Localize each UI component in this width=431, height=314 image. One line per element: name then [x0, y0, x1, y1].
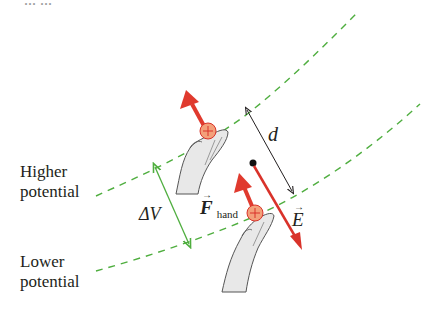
- distance-label: d: [268, 124, 278, 144]
- f-hand-label: → F hand: [200, 198, 238, 217]
- lower-potential-label: Lower potential: [20, 252, 79, 292]
- delta-v-label: ΔV: [139, 205, 161, 223]
- higher-equipotential-line: [96, 12, 358, 196]
- equipotential-diagram: ... ...: [0, 0, 431, 314]
- lower-positive-charge-icon: [247, 205, 263, 221]
- e-field-label: → E: [292, 210, 304, 229]
- upper-hand-icon: [176, 130, 228, 194]
- lower-hand-icon: [222, 213, 274, 292]
- higher-potential-label: Higher potential: [20, 162, 79, 202]
- upper-positive-charge-icon: [200, 123, 216, 139]
- upper-force-arrow: [180, 90, 204, 126]
